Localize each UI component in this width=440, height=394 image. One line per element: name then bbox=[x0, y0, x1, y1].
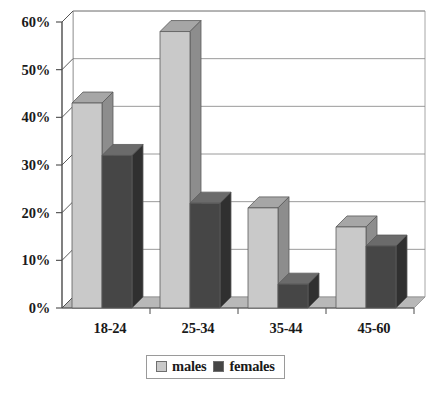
bar-males-45-60-front bbox=[336, 227, 366, 308]
dark-gray-swatch-icon bbox=[213, 361, 224, 372]
bar-females-45-60-front bbox=[366, 246, 396, 308]
legend-entry-males[interactable]: males bbox=[156, 359, 206, 374]
x-axis-tick-label: 25-34 bbox=[182, 320, 215, 337]
light-gray-swatch-icon bbox=[156, 361, 167, 372]
bar-females-35-44-front bbox=[278, 284, 308, 308]
bar-females-25-34-side bbox=[220, 192, 231, 308]
bar-females-18-24-front bbox=[102, 155, 132, 308]
bar-males-18-24-front bbox=[72, 103, 102, 308]
bar-chart: 0%10%20%30%40%50%60% 18-2425-3435-4445-6… bbox=[0, 0, 440, 394]
chart-legend: malesfemales bbox=[146, 355, 285, 379]
x-axis-tick-label: 45-60 bbox=[358, 320, 391, 337]
x-axis-tick-label: 35-44 bbox=[270, 320, 303, 337]
x-axis-tick-label: 18-24 bbox=[94, 320, 127, 337]
legend-label: males bbox=[172, 359, 206, 374]
bar-males-35-44-front bbox=[248, 208, 278, 308]
bar-females-18-24-side bbox=[132, 144, 143, 308]
legend-entry-females[interactable]: females bbox=[213, 359, 274, 374]
legend-label: females bbox=[229, 359, 274, 374]
bar-females-25-34-front bbox=[190, 203, 220, 308]
bar-males-25-34-front bbox=[160, 32, 190, 308]
bar-females-45-60-side bbox=[396, 235, 407, 308]
